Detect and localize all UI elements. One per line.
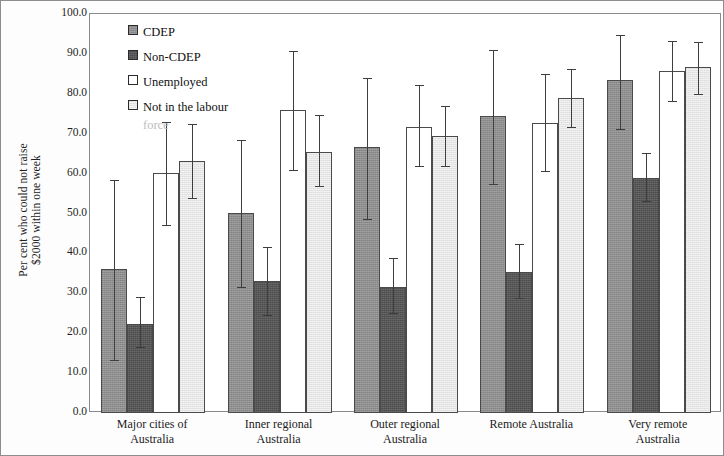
legend-item-label: Not in the labour (143, 100, 228, 114)
error-bar-cap-upper (694, 42, 703, 43)
error-bar (267, 247, 268, 315)
error-bar-cap-upper (389, 258, 398, 259)
error-bar-cap-upper (237, 140, 246, 141)
y-axis-tick-label: 50.0 (45, 207, 87, 218)
error-bar-cap-lower (188, 198, 197, 199)
y-axis-tick-label: 90.0 (45, 47, 87, 58)
error-bar-cap-upper (263, 247, 272, 248)
error-bar-cap-lower (389, 313, 398, 314)
error-bar (367, 78, 368, 219)
error-bar-cap-lower (363, 219, 372, 220)
bar (406, 127, 432, 413)
legend-swatch-icon (128, 100, 138, 110)
bar (432, 136, 458, 413)
bar (685, 67, 711, 413)
y-axis-tick-label: 10.0 (45, 366, 87, 377)
error-bar (646, 153, 647, 201)
error-bar (114, 180, 115, 360)
error-bar-cap-upper (136, 297, 145, 298)
error-bar-cap-upper (441, 106, 450, 107)
legend-item-0: CDEP (128, 22, 308, 42)
y-axis-tick-label: 70.0 (45, 127, 87, 138)
y-axis-tick-label: 100.0 (45, 7, 87, 18)
y-axis-tick-label: 0.0 (45, 406, 87, 417)
error-bar-cap-upper (616, 35, 625, 36)
error-bar-cap-lower (415, 166, 424, 167)
error-bar (241, 140, 242, 288)
bar (179, 161, 205, 413)
legend-item-sublabel: force (143, 119, 308, 132)
legend-item-label: Non-CDEP (143, 50, 201, 64)
error-bar-cap-lower (489, 184, 498, 185)
bar (558, 98, 584, 413)
error-bar-cap-lower (315, 186, 324, 187)
bar (633, 178, 659, 413)
y-axis-tick-label: 80.0 (45, 87, 87, 98)
error-bar-cap-lower (136, 347, 145, 348)
error-bar (140, 297, 141, 346)
error-bar-cap-lower (110, 360, 119, 361)
error-bar-cap-upper (363, 78, 372, 79)
legend-swatch-icon (128, 50, 138, 60)
error-bar (393, 258, 394, 313)
error-bar (571, 69, 572, 127)
bar (659, 71, 685, 413)
legend-item-1: Non-CDEP (128, 47, 308, 67)
error-bar-cap-upper (541, 74, 550, 75)
y-axis-tick-labels: 100.090.080.070.060.050.040.030.020.010.… (45, 1, 87, 456)
legend-item-3: Not in the labour (128, 97, 308, 117)
error-bar-cap-lower (162, 225, 171, 226)
error-bar-cap-upper (315, 115, 324, 116)
y-axis-tick-label: 60.0 (45, 167, 87, 178)
legend-swatch-icon (128, 25, 138, 35)
error-bar (519, 244, 520, 298)
chart-legend: CDEPNon-CDEPUnemployedNot in the labourf… (128, 22, 308, 132)
error-bar-cap-lower (515, 298, 524, 299)
error-bar (672, 41, 673, 101)
error-bar (445, 106, 446, 166)
error-bar-cap-upper (642, 153, 651, 154)
error-bar (698, 42, 699, 94)
error-bar-cap-upper (489, 50, 498, 51)
error-bar-cap-lower (541, 171, 550, 172)
y-axis-title: Per cent who could not raise $2000 withi… (17, 95, 43, 325)
error-bar-cap-lower (441, 166, 450, 167)
plot-area: CDEPNon-CDEPUnemployedNot in the labourf… (89, 13, 721, 412)
error-bar (620, 35, 621, 129)
error-bar-cap-upper (668, 41, 677, 42)
error-bar (166, 122, 167, 226)
error-bar (493, 50, 494, 184)
error-bar-cap-lower (289, 170, 298, 171)
y-axis-tick-label: 20.0 (45, 326, 87, 337)
x-axis-tick-labels: Major cities of AustraliaInner regional … (89, 417, 721, 455)
error-bar-cap-upper (515, 244, 524, 245)
error-bar (545, 74, 546, 171)
error-bar (319, 115, 320, 186)
legend-item-label: Unemployed (143, 75, 208, 89)
error-bar-cap-lower (668, 101, 677, 102)
legend-item-2: Unemployed (128, 72, 308, 92)
error-bar-cap-upper (567, 69, 576, 70)
error-bar-cap-upper (415, 85, 424, 86)
x-axis-tick-label: Very remote Australia (595, 417, 721, 447)
legend-swatch-icon (128, 75, 138, 85)
error-bar-cap-lower (237, 287, 246, 288)
error-bar-cap-lower (263, 315, 272, 316)
x-axis-tick-label: Major cities of Australia (89, 417, 215, 447)
error-bar-cap-upper (110, 180, 119, 181)
legend-item-label: CDEP (143, 25, 175, 39)
error-bar-cap-lower (642, 201, 651, 202)
y-axis-tick-label: 30.0 (45, 286, 87, 297)
x-axis-tick-label: Inner regional Australia (215, 417, 341, 447)
x-axis-tick-label: Remote Australia (468, 417, 594, 432)
y-axis-tick-label: 40.0 (45, 246, 87, 257)
error-bar-cap-lower (694, 94, 703, 95)
bar (306, 152, 332, 413)
error-bar-cap-lower (567, 127, 576, 128)
error-bar (419, 85, 420, 166)
x-axis-tick-label: Outer regional Australia (342, 417, 468, 447)
error-bar-cap-lower (616, 129, 625, 130)
error-bar (192, 124, 193, 197)
chart-figure: Per cent who could not raise $2000 withi… (0, 0, 724, 456)
